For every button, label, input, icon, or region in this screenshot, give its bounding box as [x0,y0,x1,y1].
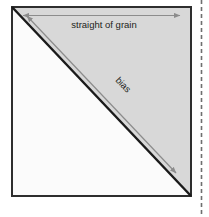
straight-of-grain-label: straight of grain [71,19,136,30]
diagram-canvas: straight of grain bias [0,0,209,217]
grain-and-bias-diagram: straight of grain bias [0,0,209,217]
